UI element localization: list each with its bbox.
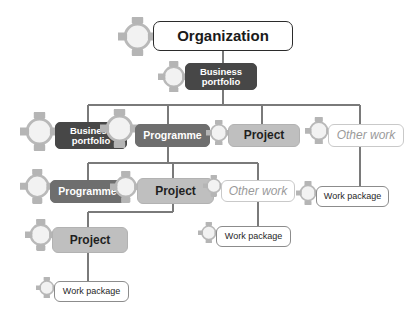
node-organization[interactable]: Organization [153,21,293,51]
cycle-icon-node-2 [215,140,222,145]
cycle-icon-node-0 [215,120,222,125]
cycle-icon-node-0 [34,112,45,119]
cycle-icon-node-0 [114,109,125,116]
node-portfolio_top[interactable]: Business portfolio [185,63,257,90]
cycle-icon-node-3 [100,124,109,132]
cycle-icon-portfolio_r2 [20,112,59,151]
cycle-icon-node-3 [158,73,165,80]
cycle-icon-node-0 [169,61,178,67]
cycle-icon-node-3 [118,32,127,40]
cycle-icon-node-0 [206,222,212,226]
cycle-icon-node-2 [132,48,143,55]
cycle-icon-node-3 [203,184,208,188]
cycle-icon-node-3 [36,285,41,289]
cycle-icon-node-0 [32,169,42,176]
cycle-icon-node-2 [32,197,42,204]
node-workpackage_r4[interactable]: Work package [216,226,291,247]
cycle-icon-node-2 [44,294,50,298]
cycle-icon-node-2 [121,197,130,203]
node-programme_r2[interactable]: Programme [135,124,210,147]
cycle-icon-node-2 [206,239,212,243]
cycle-icon-node-3 [25,232,32,239]
cycle-icon-node-2 [36,245,45,251]
node-workpackage_r3[interactable]: Work package [316,186,389,207]
node-project_r4[interactable]: Project [52,227,128,253]
node-project_r2[interactable]: Project [228,124,300,147]
cycle-icon-node-3 [110,184,117,191]
cycle-icon-node-2 [114,141,125,148]
cycle-icon-node-3 [305,128,311,134]
cycle-icon-node-3 [198,230,203,234]
cycle-icon-node-2 [169,86,178,92]
cycle-icon-node-0 [132,17,143,24]
node-workpackage_r5[interactable]: Work package [54,281,129,302]
org-breakdown-diagram: OrganizationBusiness portfolioBusiness p… [0,0,406,316]
cycle-icon-node-2 [34,144,45,151]
cycle-icon-node-3 [206,130,212,135]
cycle-icon-node-3 [296,190,302,195]
cycle-icon-node-0 [315,117,323,122]
cycle-icon-node-0 [121,171,130,177]
cycle-icon-node-0 [211,175,217,179]
cycle-icon-node-3 [20,127,29,135]
cycle-icon-node-0 [304,181,311,186]
cycle-icon-organization [118,17,157,56]
cycle-icon-node-0 [44,277,50,281]
cycle-icon-node-2 [304,200,311,205]
cycle-icon-node-2 [315,139,323,144]
cycle-icon-node-0 [36,219,45,225]
cycle-icon-node-3 [20,183,28,190]
cycle-icon-programme_r2 [100,109,139,148]
node-otherwork_r2[interactable]: Other work [328,124,404,147]
node-otherwork_r3[interactable]: Other work [221,180,295,202]
cycle-icon-node-2 [211,193,217,197]
